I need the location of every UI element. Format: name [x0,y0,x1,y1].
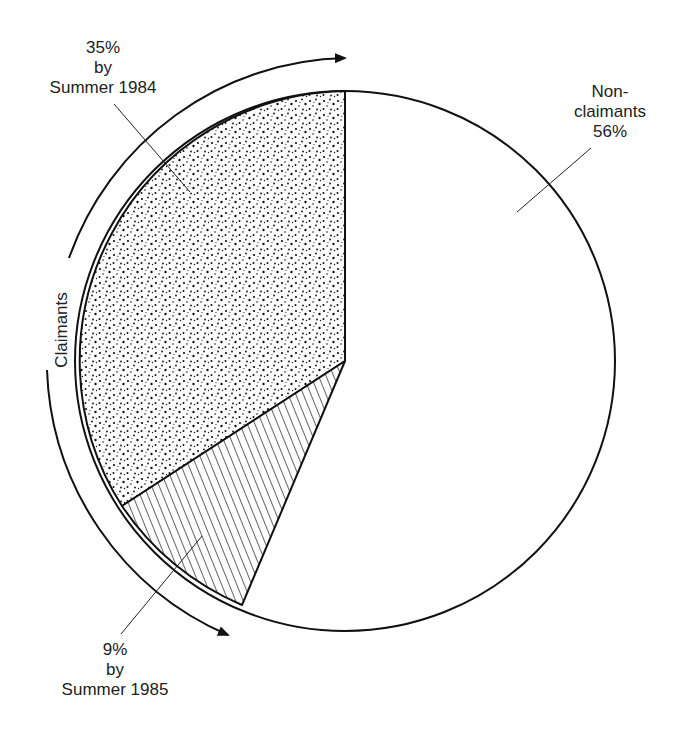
label-1985-pct: 9% [50,640,180,660]
label-claimants-1984: 35% by Summer 1984 [38,38,168,98]
label-1985-period: Summer 1985 [50,680,180,700]
label-1984-pct: 35% [38,38,168,58]
label-claimants: Claimants [52,288,72,372]
label-noncl-l1: Non- [560,82,660,102]
label-noncl-pct: 56% [560,122,660,142]
label-noncl-l2: claimants [560,102,660,122]
label-claimants-1985: 9% by Summer 1985 [50,640,180,700]
label-1984-by: by [38,58,168,78]
label-1984-period: Summer 1984 [38,78,168,98]
label-non-claimants: Non- claimants 56% [560,82,660,142]
label-1985-by: by [50,660,180,680]
